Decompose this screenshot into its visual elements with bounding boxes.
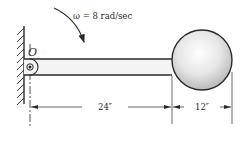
fixed-wall [17, 26, 24, 105]
sphere [172, 30, 232, 90]
pivot-label: O [28, 46, 37, 59]
pendulum-diagram: O ω = 8 rad/sec 24″ 12″ [0, 0, 248, 146]
dimension-12-label: 12″ [195, 102, 209, 112]
rod [24, 59, 172, 75]
angular-velocity-label: ω = 8 rad/sec [73, 11, 132, 21]
dimension-24-label: 24″ [98, 102, 112, 112]
